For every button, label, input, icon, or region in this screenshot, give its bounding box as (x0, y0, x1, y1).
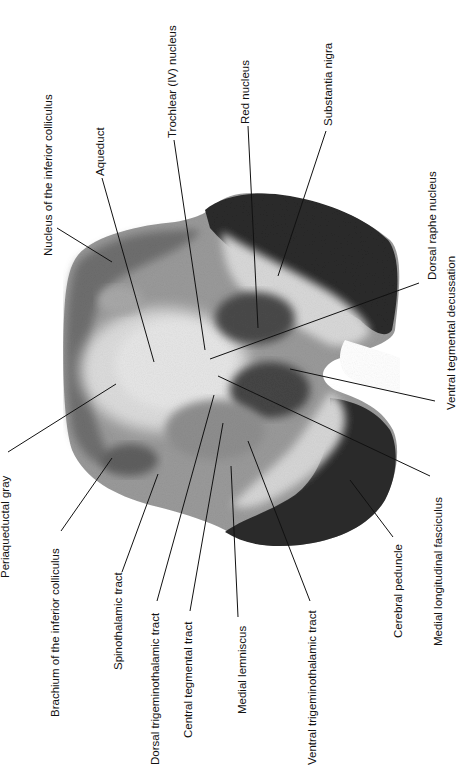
label-periaqueductal-gray: Periaqueductal gray (0, 476, 12, 578)
label-aqueduct: Aqueduct (95, 127, 107, 176)
label-trochlear-nucleus: Trochlear (IV) nucleus (167, 25, 179, 138)
label-nucleus-inferior-colliculus: Nucleus of the inferior colliculus (43, 94, 55, 256)
label-medial-longitudinal-fasciculus: Medial longitudinal fasciculus (433, 497, 445, 646)
tissue-body (63, 193, 400, 546)
label-dorsal-trigeminothalamic-tract: Dorsal trigeminothalamic tract (150, 613, 162, 765)
label-spinothalamic-tract: Spinothalamic tract (113, 572, 125, 670)
label-cerebral-peduncle: Cerebral peduncle (393, 544, 405, 638)
midbrain-section-figure: Nucleus of the inferior colliculus Aqued… (0, 0, 466, 784)
label-red-nucleus: Red nucleus (240, 60, 252, 124)
label-central-tegmental-tract: Central tegmental tract (183, 622, 195, 738)
label-ventral-trigeminothalamic-tract: Ventral trigeminothalamic tract (307, 610, 319, 765)
label-brachium-inferior-colliculus: Brachium of the inferior colliculus (50, 548, 62, 717)
label-substantia-nigra: Substantia nigra (323, 43, 335, 126)
label-medial-lemniscus: Medial lemniscus (237, 626, 249, 714)
label-dorsal-raphe-nucleus: Dorsal raphe nucleus (427, 171, 439, 280)
midbrain-specimen (0, 0, 466, 784)
label-ventral-tegmental-decussation: Ventral tegmental decussation (446, 256, 458, 410)
